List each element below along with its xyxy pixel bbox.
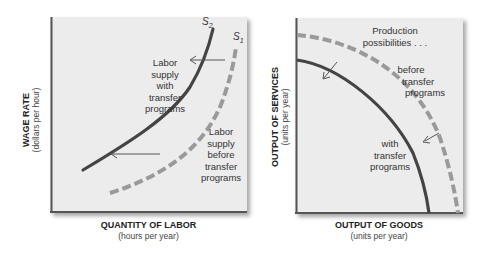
shift-arrow-icon xyxy=(423,136,430,143)
quantity-of-labor-axis-label: QUANTITY OF LABOR (hours per year) xyxy=(50,220,247,242)
with-transfer-label: Labor supply with transfer programs xyxy=(130,57,200,115)
y-axis-title: OUTPUT OF SERVICES xyxy=(270,57,280,177)
output-of-goods-axis-label: OUTPUT OF GOODS (units per year) xyxy=(295,220,463,242)
labor-supply-plot xyxy=(50,17,247,213)
s2-label: S2 xyxy=(202,16,213,29)
output-of-services-axis-label: OUTPUT OF SERVICES (units per year) xyxy=(270,57,294,177)
y-axis-subtitle: (units per year) xyxy=(280,57,290,177)
y-axis-title: WAGE RATE xyxy=(21,65,31,175)
wage-rate-axis-label: WAGE RATE (dollars per hour) xyxy=(21,65,45,175)
ppf-before-label: before transfer programs xyxy=(385,64,455,99)
s1-label: S1 xyxy=(233,31,244,44)
production-possibilities-heading: Production possibilities . . . xyxy=(350,25,440,48)
y-axis-subtitle: (dollars per hour) xyxy=(31,65,41,175)
labor-supply-chart: S2 S1 Labor supply with transfer program… xyxy=(50,17,247,213)
before-transfer-label: Labor supply before transfer programs xyxy=(186,126,256,184)
ppf-before-curve xyxy=(297,35,458,213)
ppf-with-label: with transfer programs xyxy=(360,138,420,173)
production-possibilities-chart: Production possibilities . . . before tr… xyxy=(295,18,463,214)
